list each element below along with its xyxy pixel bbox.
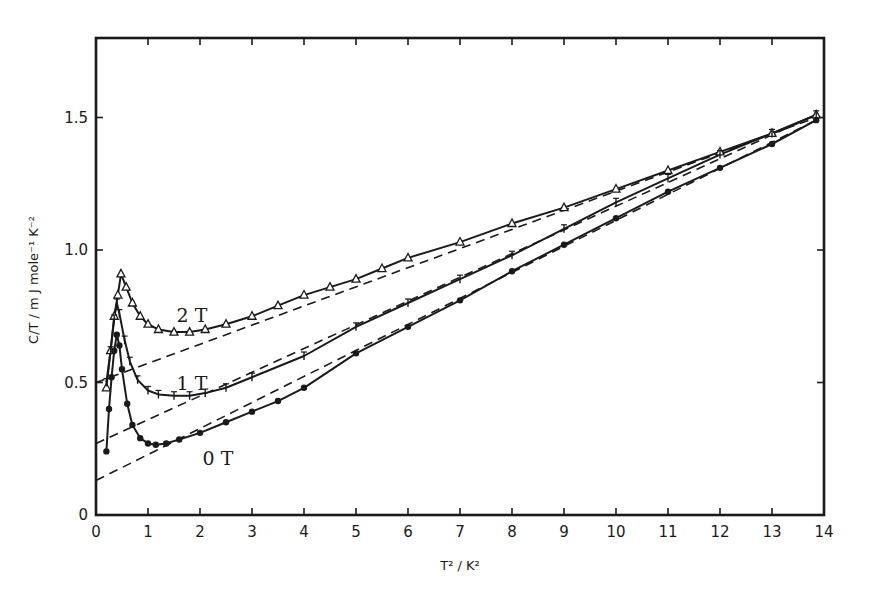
x-tick-label: 12 [710,523,729,541]
x-tick-label: 9 [559,523,569,541]
x-tick-label: 3 [247,523,257,541]
chart: 01234567891011121314 00.51.01.5 2 T1 T0 … [0,0,877,612]
data-point-triangle [128,299,136,307]
data-point-triangle [122,283,130,291]
data-point-circle [509,268,515,274]
data-point-circle [301,385,307,391]
data-point-circle [145,440,151,446]
x-tick-label: 14 [814,523,833,541]
data-point-circle [223,419,229,425]
y-tick-label: 0 [78,506,88,524]
data-point-circle [176,436,182,442]
x-tick-label: 2 [195,523,205,541]
curve-label-1t: 1 T [177,372,208,394]
x-tick-label: 6 [403,523,413,541]
series-line-2t [106,115,816,388]
data-point-circle [197,430,203,436]
data-point-circle [103,448,109,454]
data-point-circle [111,348,117,354]
data-point-circle [137,435,143,441]
x-axis-title: T² / K² [439,558,480,573]
data-point-circle [153,442,159,448]
data-point-circle [163,440,169,446]
series-lines [106,115,816,452]
data-point-circle [665,189,671,195]
fit-lines [96,115,816,481]
data-point-circle [813,117,819,123]
data-point-triangle [117,269,125,277]
x-tick-label: 7 [455,523,465,541]
y-tick-label: 0.5 [64,374,88,392]
data-point-circle [353,350,359,356]
data-point-circle [124,401,130,407]
fit-line [96,118,816,383]
x-tick-label: 8 [507,523,517,541]
data-point-circle [613,215,619,221]
data-point-circle [119,366,125,372]
data-point-triangle [114,291,122,299]
x-tick-label: 10 [606,523,625,541]
data-point-circle [249,408,255,414]
data-point-circle [114,332,120,338]
y-tick-label: 1.5 [64,109,88,127]
data-point-circle [116,342,122,348]
series-line-0t [106,120,816,451]
curve-label-0t: 0 T [203,447,234,469]
data-point-circle [275,398,281,404]
data-point-circle [717,165,723,171]
data-point-circle [108,374,114,380]
x-tick-label: 5 [351,523,361,541]
data-point-circle [106,406,112,412]
x-tick-label: 11 [658,523,677,541]
y-axis-title: C/T / m J mole⁻¹ K⁻² [26,216,41,344]
data-point-circle [129,422,135,428]
x-tick-label: 13 [762,523,781,541]
data-point-circle [457,297,463,303]
data-point-circle [405,324,411,330]
x-tick-label: 4 [299,523,309,541]
data-point-circle [561,242,567,248]
x-tick-label: 0 [91,523,101,541]
data-point-circle [769,141,775,147]
curve-label-2t: 2 T [177,304,208,326]
y-tick-label: 1.0 [64,241,88,259]
x-tick-label: 1 [143,523,153,541]
